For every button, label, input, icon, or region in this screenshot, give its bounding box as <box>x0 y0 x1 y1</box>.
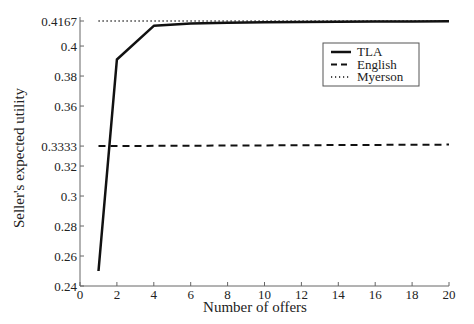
y-tick-label: 0.36 <box>54 99 77 114</box>
y-tick-label: 0.4 <box>61 39 78 54</box>
legend: TLAEnglishMyerson <box>323 43 419 86</box>
y-tick-label: 0.28 <box>54 219 77 234</box>
y-tick-label: 0.38 <box>54 69 77 84</box>
x-tick-label: 6 <box>187 287 194 302</box>
x-axis-title: Number of offers <box>203 299 307 315</box>
y-tick-label: 0.32 <box>54 159 77 174</box>
x-tick-label: 20 <box>443 287 456 302</box>
x-tick-label: 0 <box>77 287 84 302</box>
y-tick-label: 0.3 <box>61 189 77 204</box>
y-tick-label: 0.4167 <box>41 14 77 29</box>
y-tick-label: 0.3333 <box>41 139 77 154</box>
x-tick-label: 4 <box>151 287 158 302</box>
legend-label-myerson: Myerson <box>357 69 404 84</box>
x-tick-label: 18 <box>406 287 419 302</box>
y-tick-label: 0.26 <box>54 249 77 264</box>
y-tick-label: 0.24 <box>54 279 77 294</box>
x-tick-label: 16 <box>369 287 383 302</box>
x-tick-label: 2 <box>114 287 121 302</box>
line-chart: 024681012141618200.240.260.280.30.320.33… <box>0 0 474 324</box>
x-tick-label: 14 <box>332 287 346 302</box>
series-english-line <box>99 145 450 147</box>
y-axis-title: Seller's expected utility <box>11 87 27 228</box>
